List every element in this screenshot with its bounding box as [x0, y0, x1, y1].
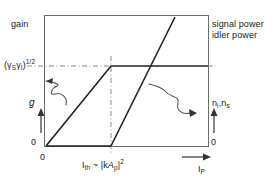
left-curly-arrow-path: [46, 81, 66, 105]
figure-root: gain signal power idler power (γSγI)1/2 …: [0, 0, 274, 183]
photon-axis-arrowhead: [211, 108, 218, 116]
right-curly-arrow-path: [149, 84, 190, 113]
left-curly-arrowhead: [46, 78, 53, 84]
plot-frame: [45, 16, 209, 147]
gain-curve: [46, 66, 208, 146]
y-tick-label-zero-left: 0: [31, 137, 36, 147]
right-axis-caption-line1: signal power: [212, 19, 264, 29]
x-axis-label-pump: IP: [198, 164, 205, 175]
y-axis-label-photon-numbers: ni,ns: [212, 98, 230, 109]
x-tick-label-threshold: Ith ~ |kAp|2: [82, 160, 124, 171]
y-tick-label-saturation: (γSγI)1/2: [4, 60, 35, 71]
pump-axis-arrowhead: [203, 154, 211, 161]
y-axis-label-gain: g: [29, 98, 35, 108]
gain-axis-arrowhead: [38, 108, 45, 116]
y-tick-label-zero-right: 0: [211, 137, 216, 147]
photon-curve-above-threshold: [111, 17, 175, 146]
left-axis-caption: gain: [11, 19, 28, 29]
x-tick-label-zero: 0: [40, 152, 45, 162]
right-axis-caption-line2: idler power: [212, 30, 257, 40]
right-curly-arrowhead: [189, 109, 197, 117]
